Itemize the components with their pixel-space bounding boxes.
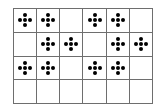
dot xyxy=(18,66,22,70)
dot xyxy=(116,42,120,46)
dot xyxy=(28,18,32,22)
dot xyxy=(139,42,143,46)
grid-cell xyxy=(37,80,60,104)
dot xyxy=(139,47,143,51)
dot xyxy=(46,61,50,65)
grid-cell xyxy=(60,57,83,81)
grid-cell xyxy=(60,80,83,104)
dot xyxy=(74,42,78,46)
dot xyxy=(18,18,22,22)
grid-cell xyxy=(60,9,83,33)
dot xyxy=(134,42,138,46)
dot xyxy=(111,18,115,22)
dot xyxy=(144,42,148,46)
dot xyxy=(41,42,45,46)
dot xyxy=(23,18,27,22)
grid-cell xyxy=(37,33,60,57)
dot xyxy=(41,18,45,22)
grid-cell xyxy=(37,57,60,81)
dot xyxy=(116,47,120,51)
dot xyxy=(51,42,55,46)
dot xyxy=(116,23,120,27)
grid-cell xyxy=(107,33,130,57)
dot xyxy=(111,66,115,70)
dot xyxy=(93,23,97,27)
dot xyxy=(46,23,50,27)
grid-cell xyxy=(107,80,130,104)
grid-cell xyxy=(130,9,153,33)
dot xyxy=(69,42,73,46)
dot xyxy=(98,66,102,70)
dot xyxy=(28,66,32,70)
dot xyxy=(46,42,50,46)
dot xyxy=(51,66,55,70)
dot xyxy=(23,23,27,27)
dot xyxy=(88,18,92,22)
dot xyxy=(23,66,27,70)
dot xyxy=(139,37,143,41)
grid-cell xyxy=(14,57,37,81)
grid-cell xyxy=(130,80,153,104)
dot xyxy=(46,37,50,41)
dot xyxy=(69,47,73,51)
dot xyxy=(41,66,45,70)
dot xyxy=(93,71,97,75)
dot xyxy=(46,47,50,51)
dot xyxy=(23,61,27,65)
grid-cell xyxy=(83,80,106,104)
grid-cell xyxy=(83,33,106,57)
dot-grid xyxy=(13,8,153,104)
grid-cell xyxy=(83,9,106,33)
grid-cell xyxy=(107,9,130,33)
dot xyxy=(69,37,73,41)
grid-cell xyxy=(83,57,106,81)
grid-cell xyxy=(60,33,83,57)
grid-cell xyxy=(107,57,130,81)
dot xyxy=(23,71,27,75)
grid-cell xyxy=(37,9,60,33)
dot xyxy=(116,71,120,75)
dot xyxy=(116,18,120,22)
dot xyxy=(64,42,68,46)
dot xyxy=(121,42,125,46)
grid-cell xyxy=(14,33,37,57)
dot xyxy=(93,66,97,70)
dot xyxy=(98,18,102,22)
grid-cell xyxy=(14,80,37,104)
dot xyxy=(116,66,120,70)
grid-cell xyxy=(130,33,153,57)
grid-cell xyxy=(130,57,153,81)
dot xyxy=(116,13,120,17)
dot xyxy=(46,18,50,22)
dot xyxy=(93,61,97,65)
dot xyxy=(116,61,120,65)
dot xyxy=(93,18,97,22)
dot xyxy=(121,66,125,70)
dot xyxy=(46,13,50,17)
dot xyxy=(46,71,50,75)
dot xyxy=(88,66,92,70)
dot xyxy=(116,37,120,41)
dot xyxy=(93,13,97,17)
grid-cell xyxy=(14,9,37,33)
dot xyxy=(23,13,27,17)
dot xyxy=(111,42,115,46)
dot xyxy=(51,18,55,22)
dot xyxy=(46,66,50,70)
dot xyxy=(121,18,125,22)
